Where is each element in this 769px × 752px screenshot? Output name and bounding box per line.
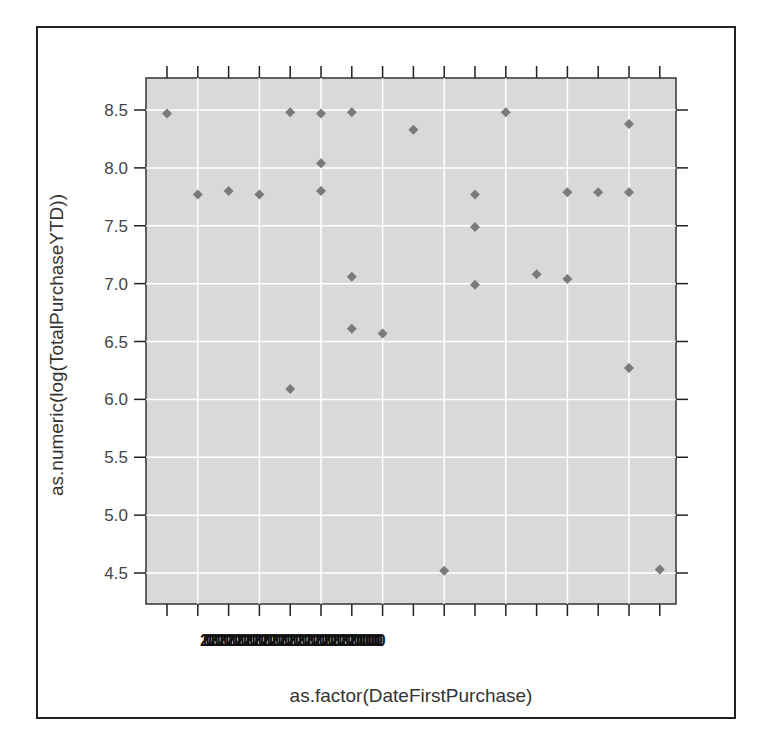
y-tick-labels: 4.55.05.56.06.57.07.58.08.5 — [104, 101, 128, 583]
y-tick-label: 5.5 — [104, 448, 128, 467]
y-tick-label: 8.0 — [104, 159, 128, 178]
y-tick-label: 8.5 — [104, 101, 128, 120]
y-tick-label: 6.5 — [104, 333, 128, 352]
y-tick-label: 6.0 — [104, 390, 128, 409]
y-tick-label: 5.0 — [104, 506, 128, 525]
x-tick-labels: 2002002002002002002002002002002002002002… — [200, 632, 735, 650]
y-tick-label: 4.5 — [104, 564, 128, 583]
x-axis-label: as.factor(DateFirstPurchase) — [290, 685, 533, 707]
y-axis-label: as.numeric(log(TotalPurchaseYTD)) — [46, 194, 68, 496]
y-tick-label: 7.5 — [104, 217, 128, 236]
y-tick-label: 7.0 — [104, 275, 128, 294]
